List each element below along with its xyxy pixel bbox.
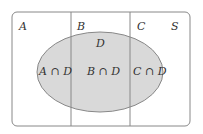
label-a-intersect-d: A ∩ D — [38, 65, 72, 78]
label-a: A — [18, 20, 27, 33]
label-c-intersect-d: C ∩ D — [133, 65, 167, 78]
venn-diagram: A B C S D A ∩ D B ∩ D C ∩ D — [0, 0, 203, 134]
label-b-intersect-d: B ∩ D — [86, 65, 120, 78]
label-c: C — [137, 20, 146, 33]
label-s: S — [171, 20, 179, 33]
label-b: B — [76, 20, 85, 33]
label-d: D — [95, 37, 105, 50]
